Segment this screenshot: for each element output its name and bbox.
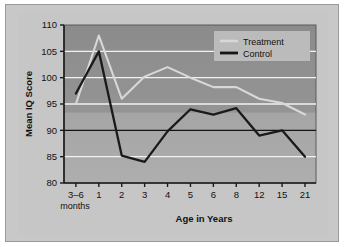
x-axis-tick-labels: 3–61234568121521: [68, 189, 310, 200]
y-tick-label-100: 100: [41, 72, 57, 83]
x-tick-label-8: 12: [254, 189, 265, 200]
y-tick-label-105: 105: [41, 46, 57, 57]
x-tick-label-5: 5: [188, 189, 193, 200]
x-tick-label-9: 15: [277, 189, 288, 200]
x-tick-label-0: 3–6: [68, 189, 84, 200]
x-tick-label-10: 21: [300, 189, 311, 200]
x-tick-label-1: 1: [96, 189, 101, 200]
y-tick-label-90: 90: [46, 125, 57, 136]
y-tick-label-110: 110: [42, 19, 57, 30]
x-tick-label-4: 4: [165, 189, 170, 200]
y-tick-label-85: 85: [46, 151, 57, 162]
x-axis-title: Age in Years: [176, 213, 233, 224]
legend-label-treatment: Treatment: [243, 37, 284, 47]
chart-panel: 80859095100105110 3–61234568121521 Mean …: [18, 13, 328, 235]
x-axis-tick-sublabel-months: months: [60, 201, 90, 211]
figure-container: 80859095100105110 3–61234568121521 Mean …: [0, 0, 345, 247]
plot-wrapper: 80859095100105110 3–61234568121521 Mean …: [18, 13, 328, 235]
figure-frame: 80859095100105110 3–61234568121521 Mean …: [5, 4, 339, 242]
y-axis-title: Mean IQ Score: [23, 71, 34, 137]
chart-legend[interactable]: Treatment Control: [214, 31, 310, 61]
iq-score-line-chart: 80859095100105110 3–61234568121521 Mean …: [18, 13, 328, 235]
x-tick-label-3: 3: [142, 189, 147, 200]
y-tick-label-80: 80: [46, 177, 57, 188]
x-tick-label-2: 2: [119, 189, 124, 200]
x-tick-label-7: 8: [234, 189, 239, 200]
legend-label-control: Control: [243, 49, 272, 59]
y-axis-tick-labels: 80859095100105110: [41, 19, 57, 188]
y-tick-label-95: 95: [46, 98, 57, 109]
x-tick-label-6: 6: [211, 189, 216, 200]
